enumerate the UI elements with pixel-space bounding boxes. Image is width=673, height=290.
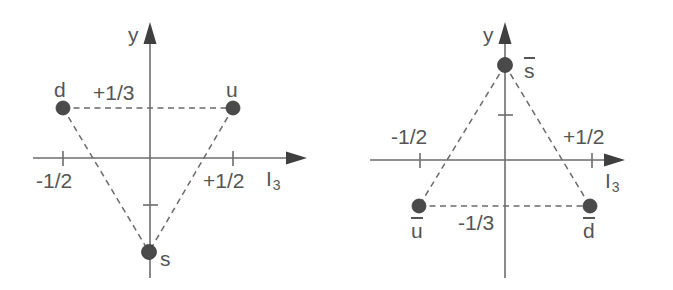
state-label-u-bar-text: u [411,217,423,241]
y-axis-arrow-icon [144,22,157,44]
antiquark-antitriplet-panel: y I3 -1/3 -1/2 +1/2 s u d [337,0,673,290]
quark-triplet-panel: y I3 +1/3 -1/2 +1/2 d u s [0,0,337,290]
state-dot-d [56,101,70,115]
state-label-d-bar: d [583,217,595,241]
state-label-d: d [54,79,66,100]
quark-weight-diagram-figure: y I3 +1/3 -1/2 +1/2 d u s [0,0,673,290]
x-axis-arrow-icon [286,152,307,165]
x-axis-label-text: I [266,167,272,190]
y-value-label-plus-third: +1/3 [93,82,134,103]
state-dot-u [226,101,240,115]
state-label-s-bar-text: s [524,57,535,81]
state-label-d-bar-text: d [583,217,595,241]
state-label-s-bar: s [524,57,535,81]
edge-sbar-ubar [419,65,505,206]
x-axis-label: I3 [266,168,280,189]
edge-d-s [63,108,149,252]
x-tick-label-plus-half: +1/2 [563,126,604,147]
state-label-s: s [160,248,171,269]
y-axis-label: y [128,24,139,45]
x-tick-label-plus-half: +1/2 [203,170,244,191]
x-axis-label-subscript: 3 [273,177,281,193]
state-dot-s-bar [498,58,513,73]
x-axis-label-text: I [605,169,611,192]
state-label-u: u [226,79,238,100]
x-axis-label-subscript: 3 [612,179,620,195]
x-tick-label-minus-half: -1/2 [391,126,427,147]
x-axis-arrow-icon [604,154,625,167]
x-tick-label-minus-half: -1/2 [36,170,72,191]
y-axis-label: y [483,24,494,45]
state-dot-u-bar [412,199,426,213]
antiquark-antitriplet-plot [337,0,673,290]
state-dot-s [142,245,157,260]
y-value-label-minus-third: -1/3 [458,212,494,233]
x-axis-label: I3 [605,170,619,191]
state-label-u-bar: u [411,217,423,241]
state-dot-d-bar [583,199,597,213]
y-axis-arrow-icon [499,22,512,44]
